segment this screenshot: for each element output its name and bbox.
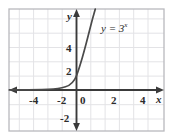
- curve-equation-base: y = 3: [101, 22, 124, 34]
- x-tick-label-pos4: 4: [140, 95, 146, 106]
- graph-figure: y = 3x y x -4 -2 0 2 4 4 2 -2: [0, 0, 173, 140]
- y-tick-label-neg2: -2: [60, 113, 69, 124]
- x-axis-name-label: x: [156, 94, 162, 105]
- y-axis-name-label: y: [67, 11, 72, 22]
- y-tick-label-pos2: 2: [66, 66, 72, 77]
- curve-equation-exponent: x: [124, 21, 127, 29]
- y-tick-label-pos4: 4: [66, 43, 72, 54]
- coordinate-plane-svg: [0, 0, 173, 140]
- x-tick-label-neg2: -2: [57, 95, 66, 106]
- x-tick-label-pos2: 2: [111, 95, 117, 106]
- curve-equation-label: y = 3x: [101, 22, 127, 34]
- x-tick-label-zero: 0: [80, 95, 86, 106]
- x-tick-label-neg4: -4: [29, 95, 38, 106]
